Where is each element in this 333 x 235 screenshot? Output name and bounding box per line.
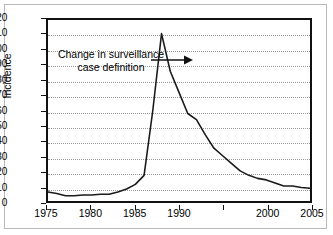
x-tick-mark [223,205,224,210]
plot-area [46,18,312,203]
y-tick-label: 30 [0,152,7,162]
y-axis-title: Incidence [2,31,13,76]
x-tick-label: 1985 [113,208,157,219]
chart-figure: 0102030405060708090100110120 Incidence C… [0,0,333,235]
x-tick-label: 2005 [290,208,333,219]
y-tick-label: 60 [0,106,7,116]
x-tick-label: 1975 [24,208,68,219]
y-axis-title-label: Incidence [2,54,13,99]
arrow-right-icon [150,53,194,67]
y-tick-mark [41,203,46,204]
y-tick-label: 10 [0,183,7,193]
x-tick-label: 1990 [157,208,201,219]
x-tick-label: 1980 [68,208,112,219]
y-tick-label: 50 [0,121,7,131]
y-tick-label: 20 [0,167,7,177]
annotation-line-1: Change in surveillance [58,48,164,60]
y-tick-label: 40 [0,136,7,146]
y-tick-label: 120 [0,13,7,23]
x-axis-ticks: 197519801985199020002005 [0,205,333,223]
x-tick-label: 2000 [246,208,290,219]
